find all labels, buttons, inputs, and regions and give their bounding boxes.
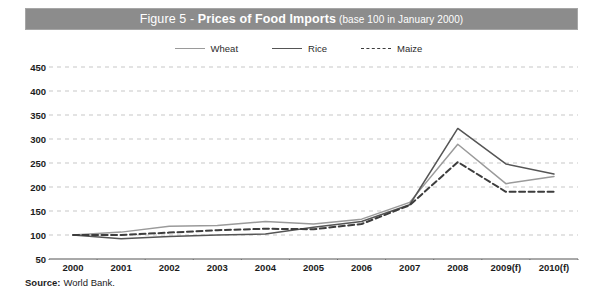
- title-main: Prices of Food Imports: [198, 12, 336, 26]
- legend-line-maize-icon: [361, 48, 391, 49]
- legend-line-rice-icon: [272, 48, 302, 49]
- source-label: Source:: [25, 277, 60, 288]
- x-tick-label: 2000: [62, 262, 83, 273]
- figure-container: Figure 5 - Prices of Food Imports (base …: [0, 0, 597, 292]
- legend-label-maize: Maize: [397, 43, 422, 54]
- x-tick-label: 2005: [303, 262, 324, 273]
- series-line-rice[interactable]: [73, 128, 554, 238]
- x-tick-label: 2009(f): [491, 262, 522, 273]
- x-tick-label: 2001: [111, 262, 132, 273]
- legend-label-wheat: Wheat: [211, 43, 238, 54]
- x-tick-label: 2004: [255, 262, 276, 273]
- legend-item-wheat[interactable]: Wheat: [175, 43, 238, 54]
- legend-label-rice: Rice: [308, 43, 327, 54]
- axis-group: [49, 259, 578, 260]
- x-tick-label: 2006: [351, 262, 372, 273]
- plot-area: [0, 60, 597, 260]
- x-tick-label: 2003: [207, 262, 228, 273]
- source-note: Source:World Bank.: [25, 277, 115, 288]
- title-prefix: Figure 5 -: [140, 12, 198, 26]
- series-group: [73, 128, 554, 238]
- x-axis-labels: 2000200120022003200420052006200720082009…: [0, 262, 597, 278]
- x-tick-label: 2007: [399, 262, 420, 273]
- legend-line-wheat-icon: [175, 48, 205, 49]
- source-value: World Bank.: [63, 277, 115, 288]
- chart-legend: Wheat Rice Maize: [0, 40, 597, 56]
- x-tick-label: 2008: [447, 262, 468, 273]
- figure-title-band: Figure 5 - Prices of Food Imports (base …: [25, 8, 578, 30]
- page-title: Figure 5 - Prices of Food Imports (base …: [140, 13, 464, 26]
- series-line-wheat[interactable]: [73, 144, 554, 235]
- x-tick-label: 2002: [159, 262, 180, 273]
- legend-item-rice[interactable]: Rice: [272, 43, 327, 54]
- x-tick-label: 2010(f): [539, 262, 570, 273]
- title-suffix: (base 100 in January 2000): [336, 14, 463, 25]
- line-chart-svg: [0, 60, 597, 260]
- legend-item-maize[interactable]: Maize: [361, 43, 422, 54]
